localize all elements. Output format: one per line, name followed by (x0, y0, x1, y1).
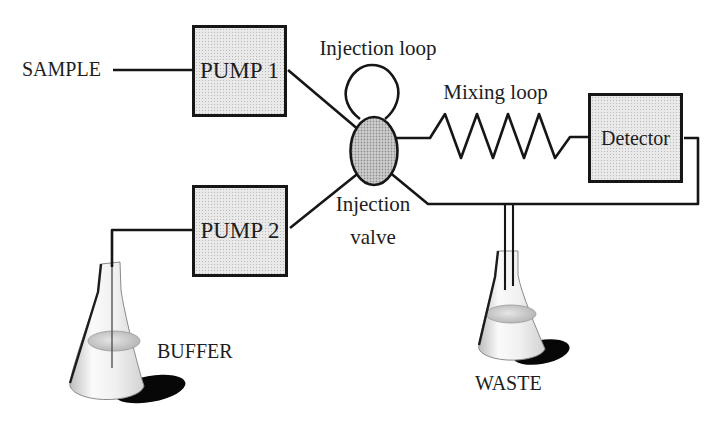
pump2-box: PUMP 2 (192, 185, 288, 277)
buffer-flask-body (70, 262, 144, 400)
sample-label: SAMPLE (22, 58, 101, 81)
injection-valve-label: Injection valve (313, 188, 433, 254)
waste-liquid-surface (486, 305, 536, 323)
flow-injection-diagram: PUMP 1 PUMP 2 Detector SAMPLE Injection … (0, 0, 728, 422)
buffer-liquid-surface (88, 331, 140, 351)
valve-to-detector-mixing-line (395, 114, 589, 158)
injection-valve-label-line2: valve (313, 221, 433, 254)
waste-label: WASTE (475, 372, 542, 395)
injection-valve-label-line1: Injection (313, 188, 433, 221)
pump1-label: PUMP 1 (200, 58, 279, 84)
injection-valve-ellipse (351, 117, 398, 185)
waste-flask (479, 251, 572, 369)
mixing-loop-label: Mixing loop (438, 80, 553, 105)
injection-loop-curve (346, 65, 399, 119)
pump1-box: PUMP 1 (192, 25, 287, 117)
pump2-label: PUMP 2 (200, 218, 279, 244)
buffer-flask (70, 262, 188, 408)
detector-label: Detector (601, 127, 670, 150)
buffer-to-pump2-line (112, 230, 193, 267)
detector-box: Detector (588, 93, 683, 183)
injection-loop-label: Injection loop (313, 36, 443, 61)
buffer-label: BUFFER (157, 340, 233, 363)
